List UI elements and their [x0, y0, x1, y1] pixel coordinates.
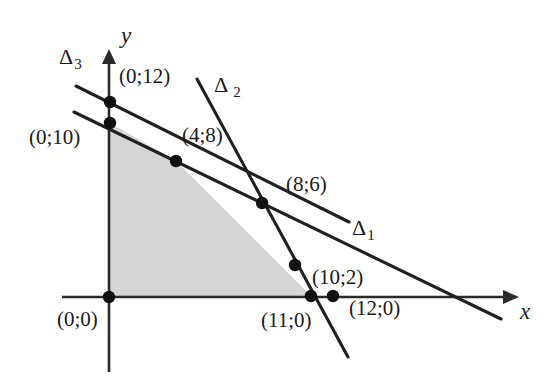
point-11-0-label: (11;0) — [261, 310, 312, 331]
point-11-0-dot — [305, 290, 317, 302]
delta-3-label: Δ3 — [59, 46, 82, 72]
point-12-0-dot — [327, 290, 339, 302]
point-0-0-dot — [103, 291, 115, 303]
linear-programming-figure — [0, 0, 557, 392]
point-0-10-label: (0;10) — [29, 127, 80, 148]
delta-2-symbol: Δ — [214, 72, 228, 97]
x-axis-label: x — [520, 300, 530, 323]
delta-3-subscript: 3 — [73, 56, 82, 72]
delta-2-subscript: 2 — [228, 84, 241, 100]
y-axis-label: y — [121, 24, 131, 47]
point-0-12-label: (0;12) — [119, 66, 170, 87]
delta-3-symbol: Δ — [59, 44, 73, 69]
point-0-12-dot — [104, 96, 116, 108]
point-12-0-label: (12;0) — [349, 298, 400, 319]
point-0-10-dot — [104, 117, 116, 129]
delta-1-symbol: Δ — [352, 215, 366, 240]
delta-1-label: Δ1 — [352, 217, 375, 243]
point-0-0-label: (0;0) — [57, 309, 98, 330]
delta-1-subscript: 1 — [366, 227, 375, 243]
point-8-6-label: (8;6) — [286, 174, 327, 195]
point-10-2-label: (10;2) — [312, 267, 363, 288]
point-4-8-dot — [170, 155, 182, 167]
point-10-2-dot — [289, 259, 301, 271]
figure-background — [0, 0, 557, 392]
point-4-8-label: (4;8) — [182, 125, 223, 146]
point-8-6-dot — [256, 197, 268, 209]
delta-2-label: Δ2 — [214, 74, 241, 100]
